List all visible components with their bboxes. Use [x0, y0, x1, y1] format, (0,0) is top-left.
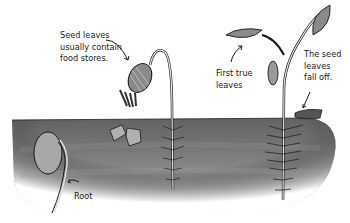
label-seed-leaves-fall-off: The seed leaves fall off.	[304, 49, 341, 84]
germination-diagram: Seed leaves usually contain food stores.…	[0, 0, 350, 223]
label-root: Root	[74, 191, 93, 203]
diagram-illustration	[0, 0, 350, 223]
label-first-true-leaves: First true leaves	[216, 68, 253, 91]
label-seed-leaves-food: Seed leaves usually contain food stores.	[60, 30, 122, 65]
